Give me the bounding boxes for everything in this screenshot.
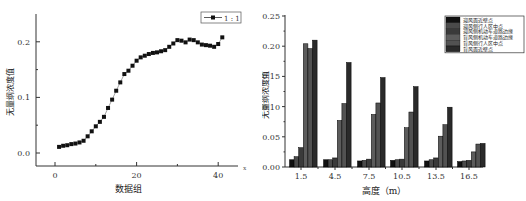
x-axis-title: 高度（m）	[362, 185, 407, 196]
data-point-marker	[143, 54, 147, 58]
data-point-marker	[110, 98, 114, 102]
bar	[303, 44, 308, 167]
bar	[409, 112, 414, 167]
bar	[362, 160, 367, 167]
legend: 迎风面近壁点迎风侧行人区中点迎风侧机动车道路边缘背风侧机动车道路边缘背风侧行人区…	[445, 16, 524, 53]
bar	[400, 159, 405, 167]
data-point-marker	[171, 41, 175, 45]
data-point-marker	[208, 44, 212, 48]
data-point-marker	[200, 43, 204, 47]
bar	[367, 159, 372, 167]
bar	[438, 136, 443, 167]
bar	[395, 160, 400, 167]
data-point-marker	[114, 89, 118, 93]
data-point-marker	[196, 40, 200, 44]
bar-chart-panel: 0.000.050.100.150.200.251.54.57.510.513.…	[262, 0, 526, 201]
y-axis-title: 无量纲浓度值	[5, 68, 15, 116]
legend-swatch-icon	[446, 17, 460, 23]
x-tick-label: 0	[52, 171, 57, 180]
data-point-marker	[216, 42, 220, 46]
bar	[429, 160, 434, 167]
bar	[337, 120, 342, 167]
y-tick-label: 0.00	[262, 163, 280, 172]
data-point-marker	[151, 51, 155, 55]
legend-square-marker-icon	[211, 16, 215, 20]
data-point-marker	[139, 55, 143, 59]
bar	[443, 125, 448, 167]
data-point-marker	[73, 142, 77, 146]
legend: 1 : 1	[201, 12, 241, 23]
legend-swatch-icon	[446, 34, 460, 40]
data-point-marker	[135, 59, 139, 63]
legend-swatch-icon	[446, 46, 460, 52]
x-axis-title: 数据组	[115, 183, 142, 194]
data-point-marker	[179, 39, 183, 43]
bar-group	[458, 143, 486, 167]
bar	[308, 49, 313, 167]
data-point-marker	[188, 38, 192, 42]
data-point-marker	[57, 145, 61, 149]
data-point-marker	[212, 45, 216, 49]
data-point-marker	[131, 64, 135, 68]
data-point-marker	[163, 48, 167, 52]
y-tick-label: 0.1	[17, 93, 30, 102]
x-tick-label: 10.5	[393, 172, 411, 181]
bar	[328, 160, 333, 167]
data-point-marker	[159, 49, 163, 53]
data-point-marker	[69, 142, 73, 146]
y-tick-label: 0.20	[262, 42, 280, 51]
bar	[358, 161, 363, 167]
bar	[299, 148, 304, 167]
x-tick-label: 1.5	[295, 172, 308, 181]
bar	[290, 160, 295, 167]
x-tick-label: 13.5	[427, 172, 445, 181]
bar	[414, 87, 419, 167]
x-tick-label: 7.5	[363, 172, 376, 181]
data-point-marker	[94, 124, 98, 128]
bar	[462, 161, 467, 167]
bar	[481, 143, 486, 167]
data-point-marker	[184, 40, 188, 44]
legend-label: 1 : 1	[224, 15, 240, 23]
data-point-marker	[147, 52, 151, 56]
bar	[448, 107, 453, 167]
data-point-marker	[155, 50, 159, 54]
x-axis-extra-label: x	[243, 164, 247, 171]
data-point-marker	[167, 45, 171, 49]
data-point-marker	[82, 139, 86, 143]
bar	[434, 158, 439, 167]
bar	[313, 40, 318, 167]
bar	[294, 157, 299, 167]
data-point-marker	[90, 129, 94, 133]
bar	[376, 103, 381, 167]
x-tick-label: 4.5	[329, 172, 342, 181]
legend-swatch-icon	[446, 29, 460, 35]
y-axis-title: 无量纲浓度值	[262, 71, 270, 119]
y-tick-label: 0.05	[262, 133, 280, 142]
bar	[333, 158, 338, 167]
x-tick-label: 16.5	[460, 172, 478, 181]
y-tick-label: 0.2	[17, 38, 30, 47]
data-point-marker	[220, 35, 224, 39]
bar-chart: 0.000.050.100.150.200.251.54.57.510.513.…	[262, 0, 526, 201]
data-point-marker	[175, 38, 179, 42]
bar	[342, 104, 347, 167]
data-point-marker	[118, 80, 122, 84]
bar	[467, 160, 472, 167]
data-point-marker	[98, 120, 102, 124]
bar	[404, 128, 409, 167]
scatter-chart-panel: 0.00.10.202040x数据组无量纲浓度值1 : 1	[0, 0, 262, 201]
data-point-marker	[86, 134, 90, 138]
data-point-marker	[77, 140, 81, 144]
bar	[391, 160, 396, 167]
data-point-marker	[106, 106, 110, 110]
bar-group	[324, 63, 352, 167]
legend-swatch-icon	[446, 23, 460, 29]
bar-group	[290, 40, 318, 167]
data-point-marker	[102, 115, 106, 119]
legend-label: 背风面近壁点	[463, 46, 493, 53]
bar	[425, 161, 430, 167]
bar	[471, 152, 476, 167]
data-point-marker	[204, 43, 208, 47]
bar	[371, 114, 376, 167]
